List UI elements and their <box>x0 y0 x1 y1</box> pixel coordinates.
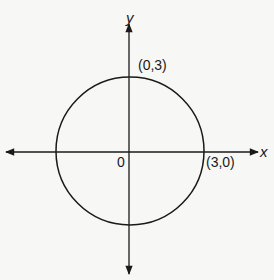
circle-diagram: y x 0 (0,3) (3,0) <box>0 0 274 280</box>
diagram-canvas <box>0 0 274 280</box>
x-axis-label: x <box>260 144 268 159</box>
point-label-top: (0,3) <box>138 58 167 72</box>
origin-label: 0 <box>117 155 125 169</box>
circle <box>56 77 204 225</box>
y-axis-label: y <box>126 10 134 25</box>
point-label-right: (3,0) <box>206 155 235 169</box>
